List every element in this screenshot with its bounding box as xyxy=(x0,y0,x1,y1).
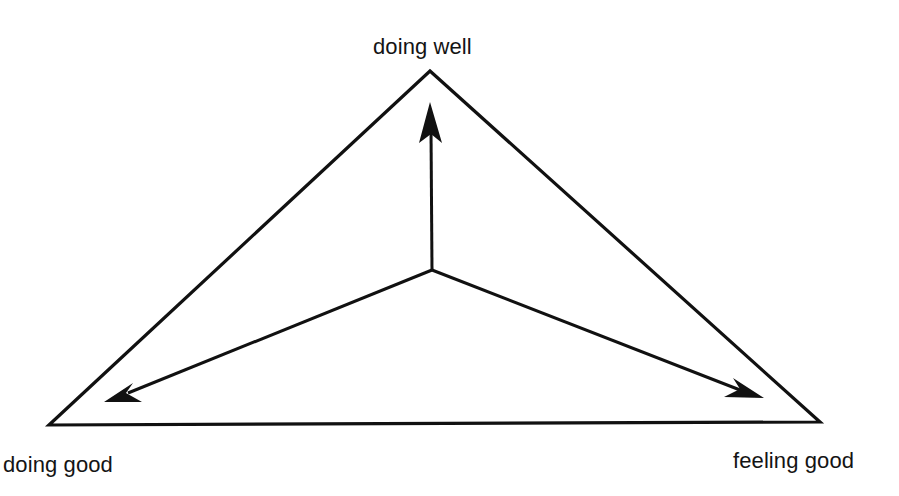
vertex-label-doing-good: doing good xyxy=(3,452,113,478)
triangle-diagram xyxy=(0,0,899,496)
arrowhead-left-icon xyxy=(104,383,142,402)
vertex-label-feeling-good: feeling good xyxy=(733,448,854,474)
arrow-shaft-up xyxy=(431,130,432,270)
arrowhead-right-icon xyxy=(724,378,764,398)
arrow-shaft-left xyxy=(128,270,432,393)
vertex-label-doing-well: doing well xyxy=(373,34,472,60)
arrow-shaft-right xyxy=(432,270,740,390)
